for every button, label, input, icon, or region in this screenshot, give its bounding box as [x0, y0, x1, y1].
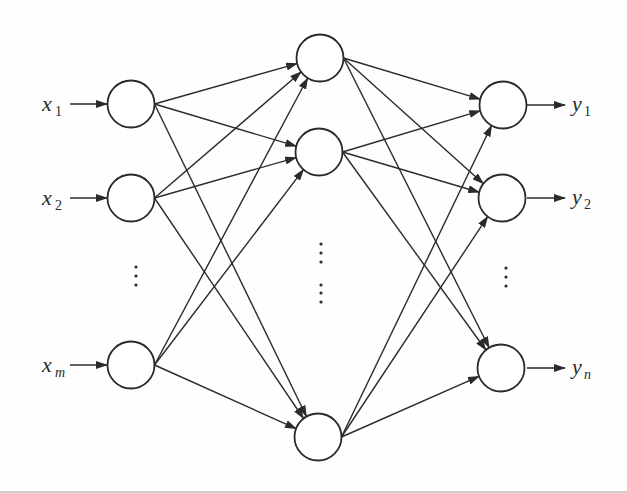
hidden-node-h2	[296, 129, 343, 176]
output-label-y2: y	[570, 184, 582, 209]
edge-x2-h1	[155, 72, 302, 198]
diagram-canvas: x1x2xmy1y2yn	[0, 0, 627, 493]
hidden-node-h1	[297, 35, 344, 82]
edge-x1-h1	[155, 64, 298, 104]
hidden-ellipsis-dot	[319, 242, 322, 245]
hidden-ellipsis-dot	[319, 260, 322, 263]
input-label-xm: x	[41, 352, 52, 377]
edge-xm-h1	[155, 78, 308, 365]
edge-h1-y2	[344, 58, 484, 184]
input-ellipsis-dot	[134, 274, 137, 277]
edge-h2-y2	[343, 152, 480, 192]
input-node-xm	[108, 342, 155, 389]
output-ellipsis-dot	[504, 266, 507, 269]
edge-h1-yn	[344, 58, 490, 348]
input-subscript-xm: m	[55, 365, 65, 380]
edge-x2-hk	[155, 198, 304, 418]
output-subscript-y2: 2	[584, 197, 591, 212]
edge-h2-y1	[343, 111, 481, 152]
neural-network-diagram: x1x2xmy1y2yn	[0, 0, 627, 493]
input-subscript-x1: 1	[55, 104, 62, 119]
hidden-ellipsis-dot	[319, 251, 322, 254]
output-label-yn: y	[570, 354, 582, 379]
input-node-x2	[108, 175, 155, 222]
input-ellipsis-dot	[134, 283, 137, 286]
input-ellipsis-dot	[134, 265, 137, 268]
output-ellipsis-dot	[504, 284, 507, 287]
output-ellipsis-dot	[504, 275, 507, 278]
neuron-nodes	[108, 35, 527, 461]
hidden-node-hk	[295, 414, 342, 461]
hidden-ellipsis-dot	[319, 283, 322, 286]
output-node-y1	[480, 82, 527, 129]
edge-x1-hk	[155, 104, 307, 417]
input-label-x1: x	[41, 91, 52, 116]
output-label-y1: y	[570, 91, 582, 116]
output-node-yn	[478, 345, 525, 392]
edge-xm-h2	[155, 170, 304, 365]
edge-x2-h2	[155, 158, 297, 198]
input-label-x2: x	[41, 185, 52, 210]
edge-hk-y1	[342, 126, 492, 437]
output-subscript-y1: 1	[584, 104, 591, 119]
hidden-ellipsis-dot	[319, 300, 322, 303]
output-node-y2	[479, 175, 526, 222]
edge-xm-hk	[155, 365, 297, 429]
input-subscript-x2: 2	[55, 198, 62, 213]
output-subscript-yn: n	[584, 367, 591, 382]
edge-hk-y2	[342, 217, 488, 437]
hidden-ellipsis-dot	[319, 291, 322, 294]
connection-edges	[155, 58, 492, 437]
input-node-x1	[108, 81, 155, 128]
edge-h1-y1	[344, 58, 481, 99]
